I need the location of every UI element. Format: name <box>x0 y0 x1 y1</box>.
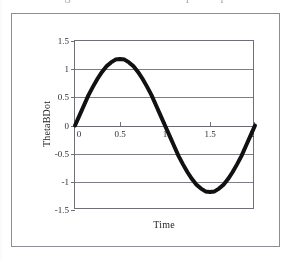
figure-frame: ThetaBDot Time 1.510.50-0.5-1-1.5 00.511… <box>11 13 280 247</box>
y-tick-label: 1.5 <box>58 36 69 46</box>
chart-area: ThetaBDot Time 1.510.50-0.5-1-1.5 00.511… <box>12 14 281 248</box>
y-axis-title: ThetaBDot <box>41 101 52 147</box>
figure-caption-text: Figure — ThetaBDot response plot <box>53 0 241 4</box>
y-tick-mark--1.5 <box>71 210 75 211</box>
y-tick-label: -1 <box>62 177 70 187</box>
plot-area: 1.510.50-0.5-1-1.5 00.511.52 <box>74 40 254 209</box>
series-thetabdot-curve <box>75 41 255 210</box>
y-tick-label: 0.5 <box>58 92 69 102</box>
y-tick-label: 1 <box>65 64 70 74</box>
y-tick-label: -0.5 <box>55 149 69 159</box>
x-axis-title: Time <box>153 219 175 230</box>
y-tick-label: 0 <box>65 121 70 131</box>
figure-caption-strip: Figure — ThetaBDot response plot <box>0 0 295 11</box>
y-tick-label: -1.5 <box>55 205 69 215</box>
